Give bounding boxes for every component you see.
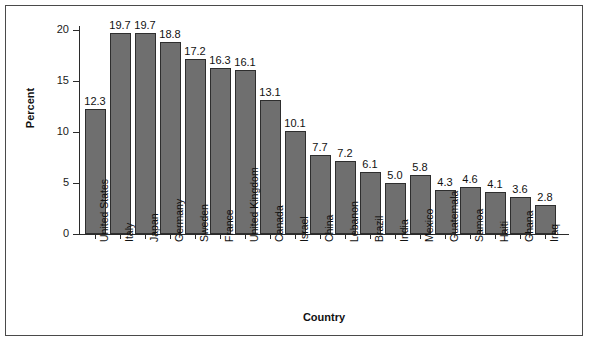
bar-slot: 4.6 bbox=[458, 30, 483, 234]
y-tick-mark bbox=[73, 234, 79, 235]
x-tick-mark bbox=[120, 235, 121, 239]
x-tick-mark bbox=[295, 235, 296, 239]
x-tick-label: Germany bbox=[174, 199, 185, 242]
y-tick-label-wrap: 20 bbox=[6, 24, 69, 25]
x-tick-label: India bbox=[399, 219, 410, 242]
bar bbox=[135, 33, 156, 234]
x-tick-mark bbox=[395, 235, 396, 239]
y-tick-label-wrap: 10 bbox=[6, 126, 69, 127]
bar-slot: 13.1 bbox=[258, 30, 283, 234]
x-tick-label: Lebanon bbox=[349, 201, 360, 242]
x-tick-label: Ghana bbox=[524, 210, 535, 242]
bar-slot: 5.0 bbox=[383, 30, 408, 234]
x-tick-label: Italy bbox=[124, 223, 135, 242]
y-tick-label: 0 bbox=[23, 228, 69, 239]
x-tick-label: Haiti bbox=[499, 221, 510, 242]
bar-slot: 4.1 bbox=[483, 30, 508, 234]
bar-slot: 19.7 bbox=[133, 30, 158, 234]
y-tick-label-wrap: 15 bbox=[6, 75, 69, 76]
bar-slot: 6.1 bbox=[358, 30, 383, 234]
bar-slot: 7.7 bbox=[308, 30, 333, 234]
x-tick-label: Israel bbox=[299, 216, 310, 242]
y-tick-label: 20 bbox=[23, 24, 69, 35]
x-tick-mark bbox=[545, 235, 546, 239]
x-tick-mark bbox=[345, 235, 346, 239]
bar-value-label: 2.8 bbox=[524, 192, 566, 203]
x-tick-mark bbox=[270, 235, 271, 239]
x-tick-label: Samoa bbox=[474, 209, 485, 242]
y-axis-title: Percent bbox=[24, 78, 36, 138]
x-tick-label: Brazil bbox=[374, 216, 385, 242]
x-tick-label: United Kingdom bbox=[249, 167, 260, 242]
x-tick-mark bbox=[95, 235, 96, 239]
y-tick-label-wrap: 0 bbox=[6, 228, 69, 229]
bar-slot: 5.8 bbox=[408, 30, 433, 234]
x-axis-title: Country bbox=[79, 311, 569, 323]
bar bbox=[110, 33, 131, 234]
bar-chart-image: 05101520 Percent 12.319.719.718.817.216.… bbox=[0, 0, 598, 338]
x-tick-mark bbox=[495, 235, 496, 239]
x-tick-label: China bbox=[324, 215, 335, 242]
x-tick-label: Canada bbox=[274, 205, 285, 242]
x-tick-mark bbox=[170, 235, 171, 239]
y-tick-label: 5 bbox=[23, 177, 69, 188]
chart-border-frame: 05101520 Percent 12.319.719.718.817.216.… bbox=[5, 5, 583, 336]
x-tick-mark bbox=[320, 235, 321, 239]
x-tick-mark bbox=[520, 235, 521, 239]
x-tick-label: Japan bbox=[149, 213, 160, 242]
bar-slot: 19.7 bbox=[108, 30, 133, 234]
bar-slot: 2.8 bbox=[533, 30, 558, 234]
x-tick-mark bbox=[420, 235, 421, 239]
x-tick-label: Iraq bbox=[549, 224, 560, 242]
x-tick-label: France bbox=[224, 209, 235, 242]
x-tick-mark bbox=[445, 235, 446, 239]
y-tick-label-wrap: 5 bbox=[6, 177, 69, 178]
x-tick-label: Mexico bbox=[424, 209, 435, 242]
x-tick-mark bbox=[245, 235, 246, 239]
x-tick-mark bbox=[220, 235, 221, 239]
x-tick-mark bbox=[370, 235, 371, 239]
x-tick-label: Guatemala bbox=[449, 191, 460, 242]
x-tick-label: Sweden bbox=[199, 204, 210, 242]
x-tick-label: United States bbox=[99, 179, 110, 242]
x-tick-mark bbox=[470, 235, 471, 239]
bar-slot: 10.1 bbox=[283, 30, 308, 234]
x-tick-mark bbox=[195, 235, 196, 239]
bars-container: 12.319.719.718.817.216.316.113.110.17.77… bbox=[79, 30, 569, 234]
x-tick-mark bbox=[145, 235, 146, 239]
